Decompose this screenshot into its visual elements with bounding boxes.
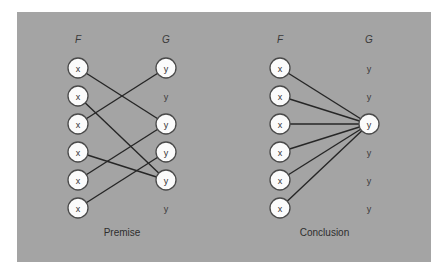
- codomain-node: y: [156, 170, 176, 190]
- node-label: y: [367, 148, 372, 158]
- mapping-edge: [78, 152, 166, 208]
- mapping-diagrams: FGxxxxxxyyyyyyPremiseFGxxxxxxyyyyyyConcl…: [0, 0, 447, 277]
- node-label: y: [367, 64, 372, 74]
- node-label: y: [164, 92, 169, 102]
- mapping-edge: [78, 152, 166, 180]
- node-label: y: [164, 148, 169, 158]
- premise-caption: Premise: [104, 227, 141, 238]
- node-label: y: [164, 120, 169, 130]
- node-label: x: [278, 148, 283, 158]
- codomain-unmapped-element: y: [367, 204, 372, 214]
- codomain-unmapped-element: y: [164, 204, 169, 214]
- codomain-node: y: [156, 114, 176, 134]
- codomain-node: y: [156, 58, 176, 78]
- domain-node: x: [68, 170, 88, 190]
- node-label: x: [278, 92, 283, 102]
- node-label: y: [367, 176, 372, 186]
- domain-node: x: [68, 58, 88, 78]
- domain-node: x: [68, 142, 88, 162]
- domain-node: x: [270, 58, 290, 78]
- codomain-unmapped-element: y: [164, 92, 169, 102]
- mapping-edge: [78, 96, 166, 180]
- domain-node: x: [68, 114, 88, 134]
- node-label: x: [76, 148, 81, 158]
- codomain-label-G: G: [365, 34, 373, 45]
- node-label: x: [278, 64, 283, 74]
- codomain-unmapped-element: y: [367, 92, 372, 102]
- codomain-node: y: [156, 142, 176, 162]
- domain-node: x: [270, 114, 290, 134]
- node-label: x: [278, 204, 283, 214]
- node-label: y: [367, 204, 372, 214]
- domain-node: x: [68, 198, 88, 218]
- mapping-edge: [280, 96, 369, 124]
- domain-label-F: F: [277, 34, 284, 45]
- node-label: y: [164, 204, 169, 214]
- node-label: x: [278, 176, 283, 186]
- mapping-edge: [280, 68, 369, 124]
- node-label: y: [164, 64, 169, 74]
- codomain-label-G: G: [162, 34, 170, 45]
- node-label: x: [278, 120, 283, 130]
- domain-node: x: [270, 86, 290, 106]
- node-label: x: [76, 120, 81, 130]
- node-label: x: [76, 64, 81, 74]
- node-label: x: [76, 92, 81, 102]
- mapping-edge: [280, 124, 369, 152]
- mapping-edge: [280, 124, 369, 180]
- node-label: y: [367, 120, 372, 130]
- domain-label-F: F: [75, 34, 82, 45]
- node-label: y: [367, 92, 372, 102]
- domain-node: x: [270, 142, 290, 162]
- conclusion-diagram: FGxxxxxxyyyyyyConclusion: [270, 34, 379, 238]
- codomain-unmapped-element: y: [367, 148, 372, 158]
- mapping-edge: [280, 124, 369, 208]
- domain-node: x: [270, 198, 290, 218]
- codomain-unmapped-element: y: [367, 176, 372, 186]
- domain-node: x: [270, 170, 290, 190]
- conclusion-caption: Conclusion: [300, 227, 349, 238]
- node-label: x: [76, 176, 81, 186]
- mapping-edge: [78, 124, 166, 180]
- node-label: y: [164, 176, 169, 186]
- codomain-node: y: [359, 114, 379, 134]
- codomain-unmapped-element: y: [367, 64, 372, 74]
- domain-node: x: [68, 86, 88, 106]
- premise-diagram: FGxxxxxxyyyyyyPremise: [68, 34, 176, 238]
- node-label: x: [76, 204, 81, 214]
